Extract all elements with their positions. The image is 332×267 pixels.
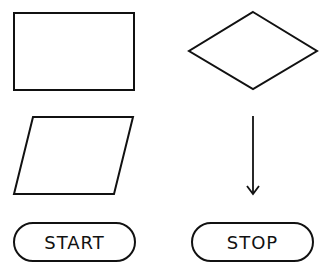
start-terminator: START — [14, 223, 135, 261]
start-label: START — [44, 232, 105, 253]
flowchart-symbols-canvas: START STOP — [0, 0, 332, 267]
input-output-parallelogram — [14, 117, 133, 194]
flow-arrow — [247, 116, 259, 194]
stop-label: STOP — [227, 232, 278, 253]
stop-terminator: STOP — [192, 223, 313, 261]
process-rectangle — [14, 13, 134, 90]
decision-diamond — [189, 12, 317, 89]
